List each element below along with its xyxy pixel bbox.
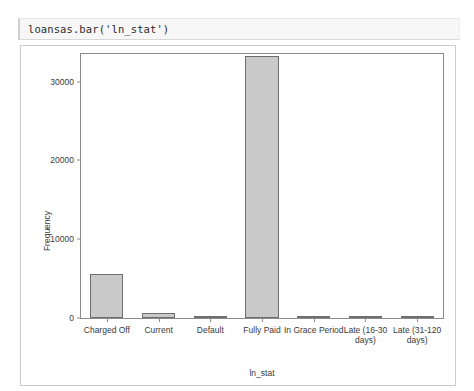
notebook-code-cell[interactable]: loansas.bar('ln_stat') [18, 18, 460, 40]
y-axis-label: Frequency [42, 211, 52, 251]
x-tick-mark [159, 318, 160, 322]
plot-area: 0100002000030000 Charged OffCurrentDefau… [80, 53, 444, 319]
x-axis-label: ln_stat [80, 368, 444, 378]
x-tick-mark [262, 318, 263, 322]
code-cell-text: loansas.bar('ln_stat') [20, 23, 169, 35]
y-tick-label: 30000 [50, 77, 81, 87]
bar-slot: Late (31-120 days) [391, 54, 443, 318]
bar-slot: Late (16-30 days) [340, 54, 392, 318]
chart-figure: Frequency ln_stat 0100002000030000 Charg… [20, 45, 456, 386]
bar [90, 274, 123, 318]
bar-slot: Fully Paid [236, 54, 288, 318]
x-tick-mark [314, 318, 315, 322]
y-tick-label: 10000 [50, 234, 81, 244]
bar-slot: Current [133, 54, 185, 318]
bar-slot: Default [184, 54, 236, 318]
bar-slot: In Grace Period [288, 54, 340, 318]
x-tick-mark [107, 318, 108, 322]
x-tick-mark [365, 318, 366, 322]
y-tick-label: 20000 [50, 155, 81, 165]
x-tick-label: Late (31-120 days) [386, 325, 448, 345]
x-tick-mark [210, 318, 211, 322]
bar-slot: Charged Off [81, 54, 133, 318]
bar [245, 56, 278, 318]
x-tick-mark [417, 318, 418, 322]
y-tick-label: 0 [69, 313, 81, 323]
bar-series: Charged OffCurrentDefaultFully PaidIn Gr… [81, 54, 443, 318]
